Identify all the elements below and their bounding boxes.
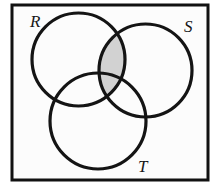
set-label-s: S [184,17,193,36]
venn-diagram-figure: R S T [0,0,220,189]
set-label-t: T [138,157,149,176]
venn-diagram-canvas: R S T [0,0,220,189]
set-label-r: R [29,12,41,31]
